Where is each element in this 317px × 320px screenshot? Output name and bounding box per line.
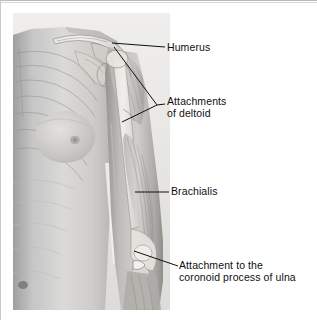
- figure-frame-top-rule: [0, 0, 317, 1]
- figure-frame-top-rule-2: [0, 2, 317, 3]
- figure-frame-left-rule: [0, 0, 1, 320]
- label-brachialis: Brachialis: [171, 186, 218, 198]
- label-attachments-of-deltoid: Attachments of deltoid: [167, 95, 226, 119]
- anatomy-photo-plate: [13, 13, 170, 310]
- plate-grain: [13, 13, 170, 310]
- anatomy-photo-svg: [13, 13, 170, 310]
- label-ulna-line-2: coronoid process of ulna: [179, 271, 296, 283]
- label-brachialis-line-1: Brachialis: [171, 186, 218, 198]
- label-humerus-line-1: Humerus: [167, 42, 210, 54]
- label-deltoid-line-2: of deltoid: [167, 107, 226, 119]
- label-attachment-coronoid-process-ulna: Attachment to the coronoid process of ul…: [179, 259, 296, 283]
- label-deltoid-line-1: Attachments: [167, 95, 226, 107]
- label-ulna-line-1: Attachment to the: [179, 259, 296, 271]
- anatomy-figure: Humerus Attachments of deltoid Brachiali…: [0, 0, 317, 320]
- label-humerus: Humerus: [167, 42, 210, 54]
